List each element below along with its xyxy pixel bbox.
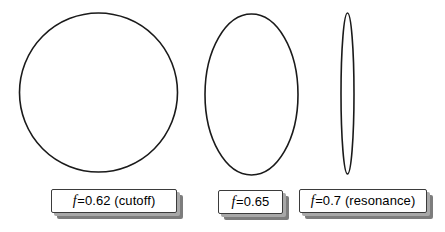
label-cutoff-box[interactable]: f=0.62 (cutoff) <box>51 189 177 213</box>
shape-ellipse-medium <box>195 0 310 190</box>
label-resonance-value: =0.7 (resonance) <box>315 193 415 208</box>
label-065-text: f=0.65 <box>232 195 270 209</box>
label-resonance-box[interactable]: f=0.7 (resonance) <box>299 189 427 213</box>
ellipse-path-0 <box>20 13 178 172</box>
shape-ellipse-narrow <box>320 0 380 190</box>
label-065-value: =0.65 <box>236 194 269 209</box>
ellipse-path-1 <box>205 14 298 175</box>
ellipse-path-2 <box>341 13 354 174</box>
label-resonance-text: f=0.7 (resonance) <box>311 194 416 208</box>
figure-canvas: f=0.62 (cutoff) f=0.65 f=0.7 (resonance) <box>0 0 445 232</box>
shape-circle-cutoff <box>0 0 200 190</box>
label-cutoff-text: f=0.62 (cutoff) <box>73 194 156 208</box>
label-cutoff-value: =0.62 (cutoff) <box>77 193 155 208</box>
label-065-box[interactable]: f=0.65 <box>218 190 283 214</box>
